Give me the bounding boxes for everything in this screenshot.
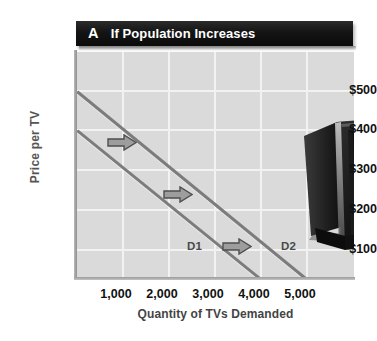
curve-label-d1: D1 [187, 240, 202, 252]
x-axis-title: Quantity of TVs Demanded [77, 307, 354, 321]
figure-banner: A If Population Increases [76, 21, 353, 46]
x-tick-label-2000: 2,000 [146, 287, 177, 301]
x-tick-label-5000: 5,000 [284, 287, 315, 301]
right-arrow-icon [107, 134, 137, 151]
y-axis-title: Price per TV [28, 92, 42, 202]
y-axis-line [74, 50, 77, 280]
y-tick-label-200: $200 [307, 202, 377, 216]
figure-if-population-increases: A If Population Increases [0, 0, 377, 341]
y-tick-label-400: $400 [307, 122, 377, 136]
figure-title: If Population Increases [111, 27, 256, 40]
banner-shadow [79, 46, 356, 50]
x-axis-line [74, 277, 355, 280]
curve-label-d2: D2 [281, 240, 296, 252]
right-arrow-icon [163, 186, 193, 203]
y-tick-label-100: $100 [307, 242, 377, 256]
y-tick-label-300: $300 [307, 162, 377, 176]
right-arrow-icon [222, 238, 252, 255]
panel-letter: A [88, 26, 99, 41]
x-tick-label-3000: 3,000 [192, 287, 223, 301]
x-tick-label-1000: 1,000 [100, 287, 131, 301]
y-tick-label-500: $500 [307, 83, 377, 97]
x-tick-label-4000: 4,000 [238, 287, 269, 301]
